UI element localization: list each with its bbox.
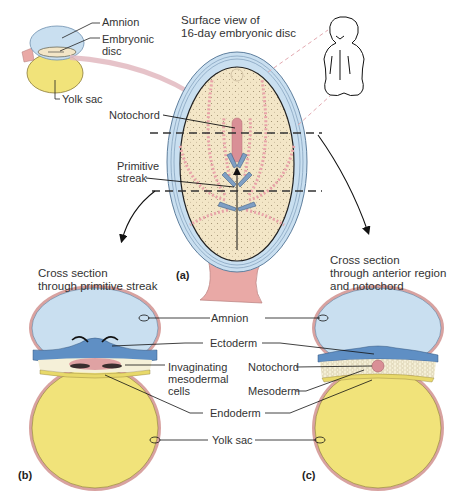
label-amnion: Amnion [211,312,248,324]
label-endoderm: Endoderm [210,407,261,419]
panel-b-letter: (b) [18,469,32,481]
inset-label-embryonic-disc: Embryonic disc [102,33,154,57]
panel-c-caption: Cross section through anterior region an… [330,254,446,293]
label-invaginating-mesodermal-cells: Invaginating mesodermal cells [168,361,229,397]
label-ectoderm: Ectoderm [210,337,257,349]
panel-b-caption: Cross section through primitive streak [38,267,158,293]
embryo-outline-icon [324,17,364,96]
label-primitive-streak: Primitive streak [117,160,159,184]
inset-label-amnion: Amnion [102,16,139,28]
panel-a-caption: Surface view of 16-day embryonic disc [181,14,296,40]
diagram-canvas [0,0,465,501]
label-notochord-c: Notochord [248,361,299,373]
label-notochord-a: Notochord [109,109,160,121]
panel-a-letter: (a) [176,269,189,281]
inset-label-yolk-sac: Yolk sac [62,93,103,105]
cross-section-primitive-streak [29,285,161,491]
label-yolk-sac: Yolk sac [212,434,253,446]
label-mesoderm: Mesoderm [248,385,300,397]
cross-section-anterior-notochord [312,285,444,491]
panel-c-letter: (c) [302,469,315,481]
